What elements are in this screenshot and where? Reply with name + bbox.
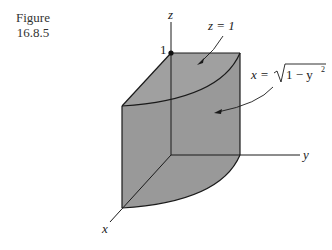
top-face-annotation: z = 1 [207,18,235,33]
curved-face-radicand: 1 − y [286,67,313,82]
z-tick-point [168,50,173,55]
curved-face-lhs: x = [250,67,269,82]
solid-diagram: z 1 y x z = 1 x = 1 − y 2 [0,0,332,250]
y-axis-label: y [301,147,309,162]
cutoff-text-row [0,244,332,250]
z-axis-label: z [167,7,173,22]
curved-face-exponent: 2 [321,65,325,74]
curved-face-annotation: x = 1 − y 2 [250,64,326,82]
x-axis-label: x [101,221,108,236]
z-tick-label: 1 [160,42,167,57]
